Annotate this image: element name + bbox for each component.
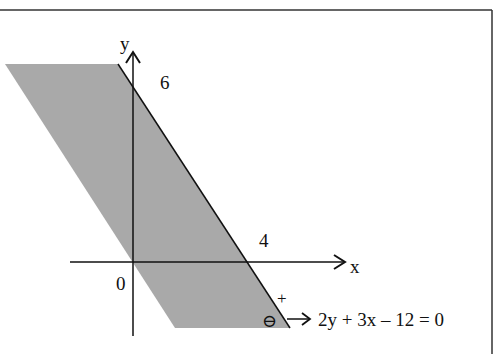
x-axis-label: x bbox=[350, 256, 360, 277]
origin-label: 0 bbox=[116, 273, 126, 294]
boundary-equation-label: 2y + 3x – 12 = 0 bbox=[318, 309, 444, 330]
positive-side-label: + bbox=[277, 289, 287, 308]
negative-side-label: ⊖ bbox=[262, 311, 277, 331]
inequality-diagram: y x 0 6 4 + ⊖ 2y + 3x – 12 = 0 bbox=[0, 0, 499, 354]
y-axis-label: y bbox=[120, 33, 130, 54]
x-intercept-label: 4 bbox=[259, 230, 269, 251]
shaded-region bbox=[5, 64, 290, 328]
y-intercept-label: 6 bbox=[160, 72, 170, 93]
